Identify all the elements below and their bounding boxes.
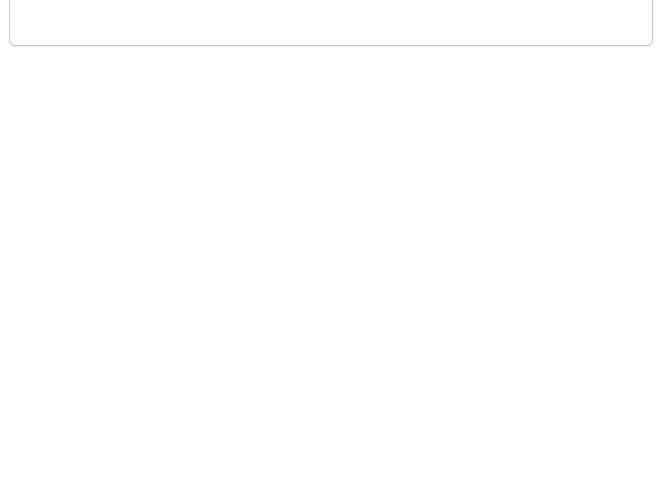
worksheet-canvas [0, 0, 660, 492]
